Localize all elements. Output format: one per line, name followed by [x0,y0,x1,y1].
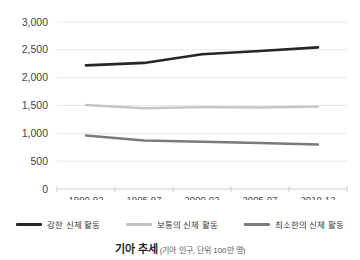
x-axis-tick-labels: 1990-921995-972000-022005-072010-12 [69,194,336,200]
y-axis-tick-label: 2,000 [22,71,48,83]
y-axis-tick-label: 0 [42,183,48,195]
y-axis-tick-label: 1,000 [22,127,48,139]
y-axis-tick-label: 500 [30,155,48,167]
y-axis-tick-label: 1,500 [22,99,48,111]
y-axis-tick-label: 3,000 [22,16,48,28]
x-axis-tick-label: 1995-97 [127,194,162,200]
y-axis-tick-labels: 05001,0001,5002,0002,5003,000 [22,16,48,195]
x-axis-tick-label: 2005-07 [243,194,278,200]
legend-item[interactable]: 최소한의 신체 활동 [244,218,344,230]
line-chart-svg: 05001,0001,5002,0002,5003,000 1990-92199… [0,0,360,200]
legend-label: 최소한의 신체 활동 [275,218,344,230]
plot-area: 05001,0001,5002,0002,5003,000 1990-92199… [0,0,360,200]
caption-title: 기아 추세 [115,243,158,255]
chart-container: 05001,0001,5002,0002,5003,000 1990-92199… [0,0,360,260]
data-series [86,47,318,144]
x-axis-tick-label: 1990-92 [69,194,104,200]
legend-item[interactable]: 강한 신체 활동 [16,218,100,230]
chart-caption: 기아 추세(기아 인구, 단위 100만 명) [0,239,360,257]
chart-legend: 강한 신체 활동보통의 신체 활동최소한의 신체 활동 [0,214,360,234]
legend-color-swatch [126,223,152,226]
y-axis-tick-label: 2,500 [22,43,48,55]
legend-label: 강한 신체 활동 [47,218,100,230]
series-line-3 [86,136,318,145]
caption-subtitle: (기아 인구, 단위 100만 명) [160,246,246,255]
legend-color-swatch [16,223,42,226]
legend-item[interactable]: 보통의 신체 활동 [126,218,218,230]
x-axis-tick-label: 2010-12 [301,194,336,200]
x-axis [57,186,347,192]
legend-label: 보통의 신체 활동 [157,218,218,230]
x-axis-tick-label: 2000-02 [185,194,220,200]
gridlines [57,22,347,161]
legend-color-swatch [244,223,270,226]
